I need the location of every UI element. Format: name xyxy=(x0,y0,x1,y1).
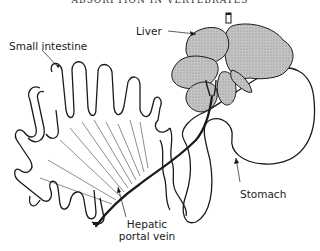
digestive-system-diagram xyxy=(0,0,320,251)
label-liver: Liver xyxy=(136,25,162,37)
label-stomach: Stomach xyxy=(240,188,286,200)
label-hepatic-line2: portal vein xyxy=(107,230,187,242)
label-hepatic-line1: Hepatic xyxy=(107,218,187,230)
label-small-intestine: Small intestine xyxy=(9,40,87,52)
label-hepatic-portal-vein: Hepatic portal vein xyxy=(107,218,187,242)
